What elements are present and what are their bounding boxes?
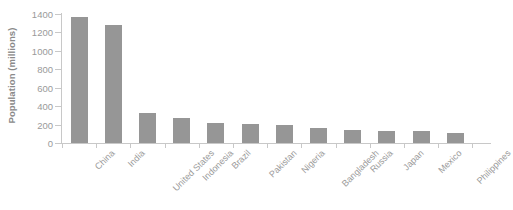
x-axis-tick	[301, 144, 302, 148]
x-axis-tick	[370, 144, 371, 148]
x-axis-tick-label: Brazil	[229, 148, 252, 171]
x-axis-tick-label-text: Philippines	[475, 148, 513, 186]
x-axis-tick	[472, 144, 473, 148]
y-axis-tick	[55, 125, 61, 126]
bar	[71, 17, 88, 143]
x-axis-tick-label: Philippines	[475, 148, 513, 186]
y-axis-tick-label: 800	[23, 64, 53, 75]
x-axis-tick-label-text: Japan	[401, 148, 425, 172]
x-axis-tick-label: China	[93, 148, 117, 172]
y-axis-tick	[55, 32, 61, 33]
bar	[413, 131, 430, 143]
y-axis-tick	[55, 143, 61, 144]
x-axis-tick-label-text: Brazil	[229, 148, 252, 171]
y-axis-tick-label: 1000	[23, 45, 53, 56]
bar	[344, 130, 361, 143]
x-axis-tick-label-text: China	[93, 148, 117, 172]
bar	[139, 113, 156, 143]
x-axis-tick-label: Mexico	[436, 148, 463, 175]
bars-layer	[62, 14, 490, 143]
x-axis-tick	[130, 144, 131, 148]
x-axis-tick-label-text: Mexico	[436, 148, 463, 175]
x-axis-tick	[165, 144, 166, 148]
x-axis-tick	[336, 144, 337, 148]
y-axis-tick	[55, 69, 61, 70]
bar	[310, 128, 327, 143]
bar	[378, 131, 395, 143]
x-axis-tick	[199, 144, 200, 148]
bar	[173, 118, 190, 143]
x-axis-tick-label-text: Nigeria	[300, 148, 327, 175]
y-axis-tick-label: 1200	[23, 27, 53, 38]
x-axis-tick	[267, 144, 268, 148]
y-axis-tick-labels: 1400120010008006004002000	[20, 0, 53, 210]
y-axis-tick	[55, 106, 61, 107]
bar	[105, 25, 122, 143]
x-axis-tick-label-text: India	[126, 148, 147, 169]
y-axis-tick-label: 600	[23, 82, 53, 93]
bar	[207, 123, 224, 143]
y-axis-tick-label: 0	[23, 138, 53, 149]
bar	[447, 133, 464, 143]
y-axis-tick	[55, 88, 61, 89]
y-axis-title: Population (millions)	[0, 0, 22, 150]
bar	[276, 125, 293, 143]
x-axis-tick-label: Nigeria	[300, 148, 327, 175]
x-axis-tick	[404, 144, 405, 148]
x-axis-tick-labels: ChinaIndiaUnited StatesIndonesiaBrazilPa…	[62, 148, 504, 210]
y-axis-tick	[55, 51, 61, 52]
x-axis-tick-label: Pakistan	[267, 148, 298, 179]
y-axis-tick-label: 400	[23, 101, 53, 112]
y-axis-tick-label: 1400	[23, 9, 53, 20]
x-axis-tick-label-text: Pakistan	[267, 148, 298, 179]
x-axis-tick	[233, 144, 234, 148]
y-axis-tick-label: 200	[23, 119, 53, 130]
y-axis-tick	[55, 14, 61, 15]
x-axis-tick-label: India	[126, 148, 147, 169]
x-axis-line	[61, 143, 491, 144]
y-axis-title-text: Population (millions)	[6, 27, 17, 123]
bar	[242, 124, 259, 143]
x-axis-tick-label: Japan	[401, 148, 425, 172]
x-axis-tick	[96, 144, 97, 148]
x-axis-tick	[62, 144, 63, 148]
x-axis-tick	[438, 144, 439, 148]
